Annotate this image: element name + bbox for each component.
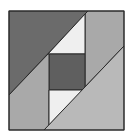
quilt-block-diagram xyxy=(0,0,132,140)
center-dark-square xyxy=(49,54,85,90)
quilt-pieces xyxy=(9,11,124,130)
